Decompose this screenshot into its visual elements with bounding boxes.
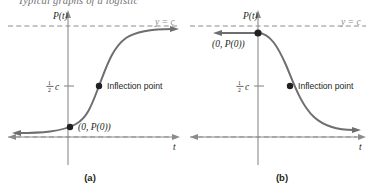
half-c-numerator-b: 1 xyxy=(238,80,241,86)
inflection-point-dot-a xyxy=(96,83,102,89)
logistic-graphs-figure: Typical graphs of a logistic P(t) t y = … xyxy=(0,0,373,196)
asymptote-label-a: y = c xyxy=(154,17,175,27)
half-c-denominator-a: 2 xyxy=(48,87,51,93)
initial-point-label-a: (0, P(0)) xyxy=(78,122,111,133)
panel-caption-b: (b) xyxy=(262,172,302,183)
half-c-label-a: c xyxy=(55,82,60,92)
initial-point-dot-a xyxy=(67,124,73,130)
t-axis-right-arrow-a xyxy=(172,134,180,140)
t-axis-left-arrow-a xyxy=(8,134,16,140)
curve-right-arrow-b xyxy=(352,127,361,133)
t-axis-right-arrow-b xyxy=(358,134,366,140)
inflection-point-label-b: Inflection point xyxy=(298,81,354,91)
t-axis-label-b: t xyxy=(359,142,362,152)
half-c-label-b: c xyxy=(245,82,250,92)
t-axis-left-arrow-b xyxy=(190,134,198,140)
initial-point-label-b: (0, P(0)) xyxy=(212,39,245,50)
p-axis-label-a: P(t) xyxy=(52,11,68,22)
inflection-point-label-a: Inflection point xyxy=(107,81,163,91)
curve-left-arrow-b xyxy=(213,30,222,36)
p-axis-label-b: P(t) xyxy=(242,11,258,22)
initial-point-dot-b xyxy=(254,29,261,36)
panel-a-plot: P(t) t y = c 1 2 c Inflection point (0, … xyxy=(0,0,186,170)
half-c-denominator-b: 2 xyxy=(238,87,241,93)
inflection-point-dot-b xyxy=(287,83,293,89)
panel-b-plot: P(t) t y = c 1 2 c Inflection point (0, … xyxy=(186,0,373,170)
t-axis-label-a: t xyxy=(173,142,176,152)
panel-caption-a: (a) xyxy=(70,172,110,183)
half-c-numerator-a: 1 xyxy=(48,80,51,86)
asymptote-label-b: y = c xyxy=(340,17,361,27)
